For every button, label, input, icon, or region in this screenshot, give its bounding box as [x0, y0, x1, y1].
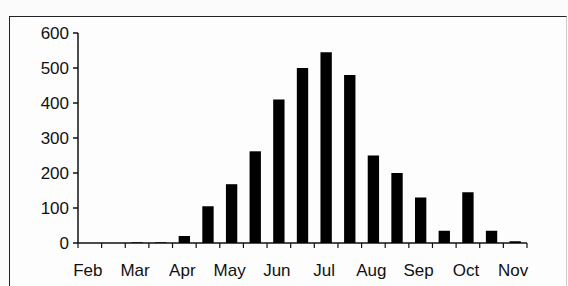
y-tick-label: 300: [41, 129, 69, 148]
x-tick-label: Apr: [169, 261, 196, 280]
y-tick-label: 100: [41, 199, 69, 218]
bar: [273, 100, 284, 244]
x-tick-label: May: [214, 261, 247, 280]
x-tick-label: Jun: [263, 261, 290, 280]
y-tick-label: 0: [60, 234, 69, 253]
bar: [368, 156, 379, 244]
x-tick-label: Sep: [404, 261, 434, 280]
bar: [297, 68, 308, 243]
bar: [486, 231, 497, 243]
bar: [462, 192, 473, 243]
bar: [202, 206, 213, 243]
bar: [439, 231, 450, 243]
bar: [226, 184, 237, 243]
x-tick-label: Feb: [73, 261, 102, 280]
bar: [510, 241, 521, 243]
x-tick-label: Aug: [356, 261, 386, 280]
x-tick-label: Mar: [120, 261, 150, 280]
bar: [179, 236, 190, 243]
bar: [415, 198, 426, 244]
x-tick-label: Oct: [453, 261, 480, 280]
bar: [250, 151, 261, 243]
bar: [391, 173, 402, 243]
x-tick-label: Nov: [498, 261, 529, 280]
bar: [155, 242, 166, 243]
x-tick-label: Jul: [313, 261, 335, 280]
bar: [131, 242, 142, 243]
bar: [344, 75, 355, 243]
y-tick-label: 500: [41, 59, 69, 78]
bar: [320, 52, 331, 243]
y-tick-label: 600: [41, 24, 69, 43]
y-tick-label: 200: [41, 164, 69, 183]
y-tick-label: 400: [41, 94, 69, 113]
